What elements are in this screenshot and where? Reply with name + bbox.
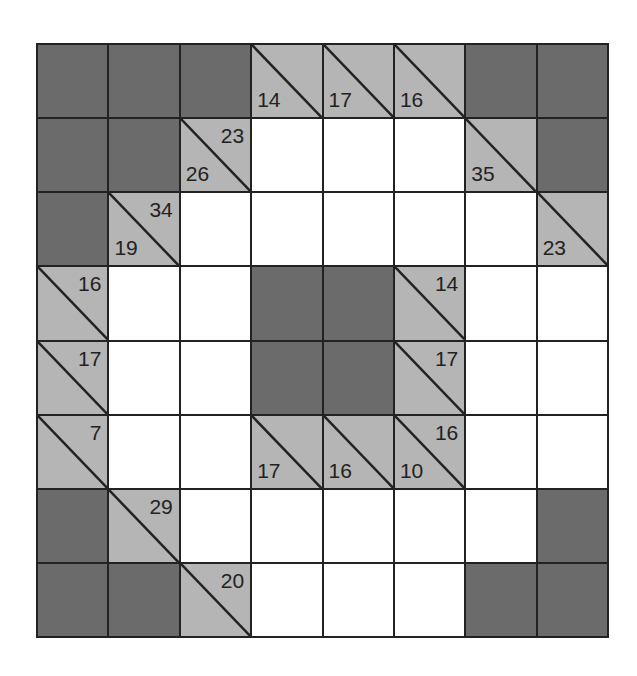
across-clue: 17 [78,347,101,371]
entry-cell[interactable] [395,490,464,562]
clue-cell: 14 [252,45,321,117]
down-clue: 23 [543,236,566,260]
clue-cell: 17 [324,45,393,117]
clue-cell: 17 [252,416,321,488]
block-cell [538,45,607,117]
block-cell [38,119,107,191]
block-cell [324,342,393,414]
block-cell [38,564,107,636]
block-cell [538,490,607,562]
entry-cell[interactable] [181,416,250,488]
across-clue: 14 [435,272,458,296]
down-clue: 14 [257,88,280,112]
entry-cell[interactable] [466,490,535,562]
entry-cell[interactable] [395,119,464,191]
clue-cell: 1610 [395,416,464,488]
entry-cell[interactable] [466,267,535,339]
clue-cell: 17 [395,342,464,414]
clue-cell: 2326 [181,119,250,191]
block-cell [38,45,107,117]
entry-cell[interactable] [181,490,250,562]
clue-cell: 16 [395,45,464,117]
clue-cell: 7 [38,416,107,488]
block-cell [324,267,393,339]
across-clue: 17 [435,347,458,371]
entry-cell[interactable] [324,119,393,191]
down-clue: 19 [114,236,137,260]
entry-cell[interactable] [538,267,607,339]
across-clue: 16 [435,421,458,445]
clue-cell: 23 [538,193,607,265]
entry-cell[interactable] [109,416,178,488]
entry-cell[interactable] [252,490,321,562]
block-cell [181,45,250,117]
entry-cell[interactable] [181,267,250,339]
across-clue: 20 [221,569,244,593]
block-cell [252,342,321,414]
clue-cell: 3419 [109,193,178,265]
entry-cell[interactable] [109,342,178,414]
entry-cell[interactable] [466,416,535,488]
clue-cell: 14 [395,267,464,339]
block-cell [109,564,178,636]
entry-cell[interactable] [252,119,321,191]
block-cell [466,45,535,117]
entry-cell[interactable] [109,267,178,339]
down-clue: 26 [186,162,209,186]
entry-cell[interactable] [181,193,250,265]
down-clue: 10 [400,459,423,483]
block-cell [252,267,321,339]
entry-cell[interactable] [466,193,535,265]
entry-cell[interactable] [395,193,464,265]
block-cell [466,564,535,636]
block-cell [538,119,607,191]
block-cell [38,490,107,562]
block-cell [38,193,107,265]
entry-cell[interactable] [252,564,321,636]
entry-cell[interactable] [538,416,607,488]
entry-cell[interactable] [395,564,464,636]
entry-cell[interactable] [324,564,393,636]
down-clue: 16 [400,88,423,112]
block-cell [109,45,178,117]
clue-cell: 16 [38,267,107,339]
clue-cell: 16 [324,416,393,488]
kakuro-grid: 141716232635341923161417177171616102920 [36,43,609,638]
down-clue: 17 [329,88,352,112]
entry-cell[interactable] [181,342,250,414]
across-clue: 34 [149,198,172,222]
clue-cell: 35 [466,119,535,191]
block-cell [109,119,178,191]
block-cell [538,564,607,636]
entry-cell[interactable] [466,342,535,414]
clue-cell: 17 [38,342,107,414]
entry-cell[interactable] [538,342,607,414]
down-clue: 35 [471,162,494,186]
across-clue: 16 [78,272,101,296]
across-clue: 7 [90,421,102,445]
across-clue: 29 [149,495,172,519]
across-clue: 23 [221,124,244,148]
down-clue: 17 [257,459,280,483]
entry-cell[interactable] [252,193,321,265]
down-clue: 16 [329,459,352,483]
entry-cell[interactable] [324,490,393,562]
entry-cell[interactable] [324,193,393,265]
clue-cell: 29 [109,490,178,562]
clue-cell: 20 [181,564,250,636]
